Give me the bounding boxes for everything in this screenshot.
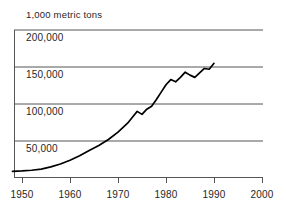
chart-container: 1,000 metric tons 200,000 150,000 100,00… (0, 0, 286, 216)
plot-area (0, 0, 286, 216)
gridlines (14, 30, 263, 141)
data-series-line (12, 63, 214, 171)
